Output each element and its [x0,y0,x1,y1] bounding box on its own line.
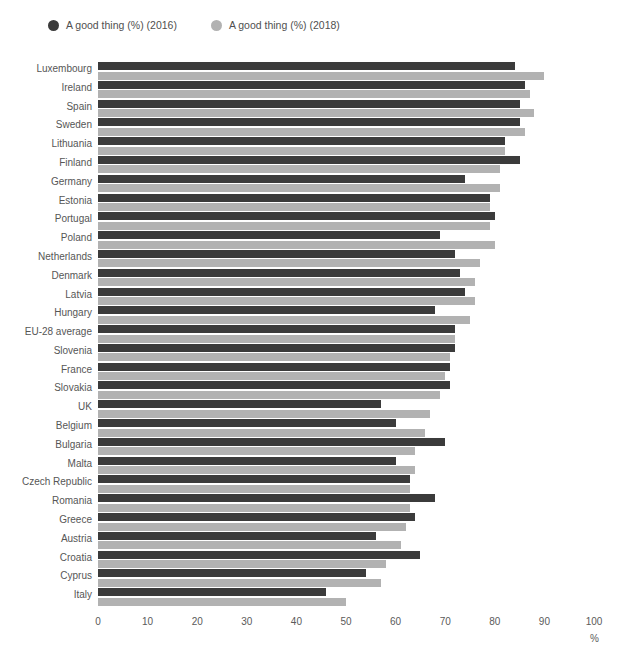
bar-2016[interactable] [98,194,490,202]
bar-2016[interactable] [98,513,415,521]
bar-2016[interactable] [98,175,465,183]
bar-2016[interactable] [98,325,455,333]
bar-2016[interactable] [98,137,505,145]
bar-2018[interactable] [98,579,381,587]
bar-2018[interactable] [98,466,415,474]
bar-2016[interactable] [98,100,520,108]
bar-2016[interactable] [98,306,435,314]
bar-2018[interactable] [98,184,500,192]
bar-2016[interactable] [98,551,420,559]
bar-group [98,551,594,570]
bar-2016[interactable] [98,532,376,540]
bar-2016[interactable] [98,288,465,296]
x-axis-tick: 80 [489,616,500,627]
bar-2018[interactable] [98,335,455,343]
category-label: EU-28 average [0,326,92,338]
legend-entry[interactable]: A good thing (%) (2018) [211,20,340,31]
bar-2016[interactable] [98,588,326,596]
bar-2018[interactable] [98,372,445,380]
bar-2016[interactable] [98,269,460,277]
bar-2018[interactable] [98,222,490,230]
legend-entry[interactable]: A good thing (%) (2016) [48,20,177,31]
value-axis: 0102030405060708090100 [98,610,594,632]
bar-2018[interactable] [98,316,470,324]
x-axis-tick: 0 [95,616,101,627]
bar-2016[interactable] [98,118,520,126]
bar-2018[interactable] [98,353,450,361]
bar-2018[interactable] [98,429,425,437]
bar-2016[interactable] [98,381,450,389]
x-axis-tick: 10 [142,616,153,627]
bar-2018[interactable] [98,259,480,267]
category-label: Portugal [0,213,92,225]
bar-group [98,250,594,269]
bar-2016[interactable] [98,344,455,352]
bar-2018[interactable] [98,523,406,531]
bar-2016[interactable] [98,457,396,465]
bar-2016[interactable] [98,419,396,427]
x-axis-tick: 20 [192,616,203,627]
category-label: Austria [0,533,92,545]
bar-group [98,306,594,325]
bar-2016[interactable] [98,363,450,371]
bar-group [98,269,594,288]
bar-2018[interactable] [98,485,410,493]
bar-group [98,532,594,551]
category-label: Romania [0,495,92,507]
bar-2018[interactable] [98,72,544,80]
bar-2018[interactable] [98,203,490,211]
bar-2016[interactable] [98,231,440,239]
bar-2018[interactable] [98,560,386,568]
bar-2018[interactable] [98,241,495,249]
bar-2016[interactable] [98,156,520,164]
bar-2018[interactable] [98,90,530,98]
bar-2016[interactable] [98,81,525,89]
bar-group [98,513,594,532]
legend-label: A good thing (%) (2016) [66,20,177,31]
bar-group [98,588,594,607]
bar-group [98,118,594,137]
bar-2018[interactable] [98,278,475,286]
category-label: Germany [0,176,92,188]
bar-2016[interactable] [98,569,366,577]
bar-2018[interactable] [98,109,534,117]
bar-2018[interactable] [98,410,430,418]
category-label: Lithuania [0,138,92,150]
bar-2018[interactable] [98,541,401,549]
bar-group [98,569,594,588]
cropped-title-remnant [120,0,540,6]
bar-group [98,194,594,213]
bar-2016[interactable] [98,494,435,502]
circle-marker [48,20,59,31]
bar-2018[interactable] [98,391,440,399]
bar-2016[interactable] [98,250,455,258]
category-label: Croatia [0,552,92,564]
x-axis-tick: 60 [390,616,401,627]
bar-2016[interactable] [98,438,445,446]
category-label: Luxembourg [0,63,92,75]
bar-2018[interactable] [98,598,346,606]
category-label: Poland [0,232,92,244]
bar-group [98,400,594,419]
x-axis-tick: 30 [241,616,252,627]
bar-group [98,381,594,400]
category-label: France [0,364,92,376]
bar-2018[interactable] [98,447,415,455]
bar-2018[interactable] [98,147,505,155]
category-label: Belgium [0,420,92,432]
bar-2018[interactable] [98,128,525,136]
bar-2016[interactable] [98,400,381,408]
bar-group [98,438,594,457]
bar-2016[interactable] [98,62,515,70]
category-label: Sweden [0,119,92,131]
plot-area [98,62,594,607]
x-axis-tick: 70 [440,616,451,627]
bar-2018[interactable] [98,165,500,173]
circle-marker [211,20,222,31]
bar-2016[interactable] [98,475,410,483]
bar-2018[interactable] [98,504,410,512]
bar-group [98,175,594,194]
bar-2016[interactable] [98,212,495,220]
bar-group [98,212,594,231]
bar-2018[interactable] [98,297,475,305]
